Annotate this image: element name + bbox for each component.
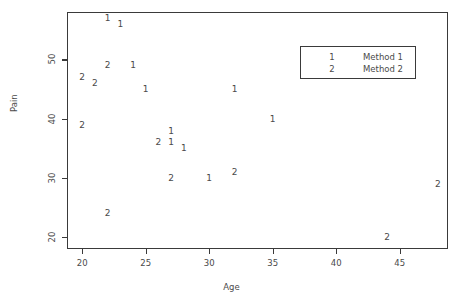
data-point-marker: 1 [168,126,174,135]
data-point-marker: 2 [384,233,390,242]
data-point-marker: 1 [270,114,276,123]
legend-key-method-2: 2 [327,64,337,74]
data-point-marker: 2 [105,209,111,218]
y-axis-tick-label: 30 [47,171,57,185]
data-point-marker: 1 [130,61,136,70]
data-point-marker: 2 [79,120,85,129]
x-axis-tick [273,249,274,254]
y-axis-tick [62,178,67,179]
data-point-marker: 1 [168,138,174,147]
data-point-marker: 1 [117,19,123,28]
data-point-marker: 1 [206,173,212,182]
legend-label-method-1: Method 1 [363,52,403,62]
data-point-marker: 2 [79,73,85,82]
y-axis-label: Pain [9,94,19,112]
x-axis-label: Age [0,282,463,292]
x-axis-tick [146,249,147,254]
data-point-marker: 1 [143,85,149,94]
x-axis-tick-label: 25 [140,258,151,268]
y-axis-tick-label: 20 [47,230,57,244]
x-axis-tick [82,249,83,254]
legend-box: 1 Method 1 2 Method 2 [300,46,416,79]
data-point-marker: 1 [105,13,111,22]
data-point-marker: 2 [156,138,162,147]
y-axis-tick [62,237,67,238]
data-point-marker: 2 [92,79,98,88]
x-axis-tick-label: 45 [394,258,405,268]
x-axis-tick [336,249,337,254]
data-point-marker: 2 [105,61,111,70]
y-axis-tick [62,119,67,120]
data-point-marker: 1 [232,85,238,94]
x-axis-tick-label: 40 [331,258,342,268]
x-axis-tick-label: 30 [204,258,215,268]
data-point-marker: 1 [181,144,187,153]
data-point-marker: 2 [232,167,238,176]
scatter-plot-screenshot: 11111111112222222222 2025303540452030405… [0,0,463,305]
x-axis-tick-label: 35 [267,258,278,268]
legend-entry: 2 Method 2 [301,64,415,76]
data-point-marker: 2 [168,173,174,182]
x-axis-tick-label: 20 [77,258,88,268]
legend-entry: 1 Method 1 [301,52,415,64]
y-axis-tick [62,59,67,60]
data-point-marker: 2 [435,179,441,188]
legend-label-method-2: Method 2 [363,64,403,74]
legend-key-method-1: 1 [327,52,337,62]
x-axis-tick [209,249,210,254]
y-axis-tick-label: 50 [47,52,57,66]
y-axis-tick-label: 40 [47,112,57,126]
x-axis-tick [400,249,401,254]
